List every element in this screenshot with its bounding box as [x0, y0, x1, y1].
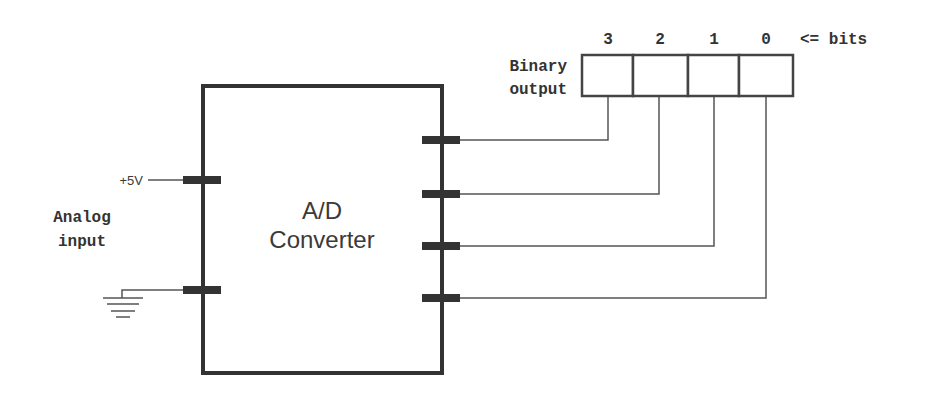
binary-output-label-line1: Binary — [509, 58, 567, 76]
pin-analog-ground — [183, 286, 221, 294]
wire-bit-1 — [460, 96, 714, 246]
bit-number-3: 3 — [603, 31, 613, 49]
converter-label-line2: Converter — [269, 226, 374, 253]
analog-input-label-line2: input — [58, 233, 106, 251]
pin-bit-3 — [422, 136, 460, 144]
pin-bit-0 — [422, 294, 460, 302]
binary-output-label-line2: output — [509, 81, 567, 99]
pin-bit-1 — [422, 242, 460, 250]
analog-input-label-line1: Analog — [53, 209, 111, 227]
wire-bit-0 — [460, 96, 766, 298]
bit-number-1: 1 — [709, 31, 719, 49]
bit-number-2: 2 — [655, 31, 665, 49]
bit-cell-1 — [688, 55, 739, 96]
supply-label: +5V — [120, 173, 144, 188]
bit-number-0: 0 — [761, 31, 771, 49]
bit-cell-3 — [582, 55, 633, 96]
bit-cell-2 — [633, 55, 688, 96]
bit-cell-0 — [739, 55, 793, 96]
wire-bit-3 — [460, 96, 608, 140]
binary-output-register — [582, 55, 793, 96]
converter-label-line1: A/D — [302, 197, 342, 224]
ad-converter-diagram: A/D Converter +5V Analog input 3 2 1 0 <… — [0, 0, 935, 399]
ground-icon — [103, 290, 183, 317]
pin-bit-2 — [422, 190, 460, 198]
wire-bit-2 — [460, 96, 659, 194]
pin-supply — [183, 176, 221, 184]
bits-suffix-label: <= bits — [800, 31, 867, 49]
